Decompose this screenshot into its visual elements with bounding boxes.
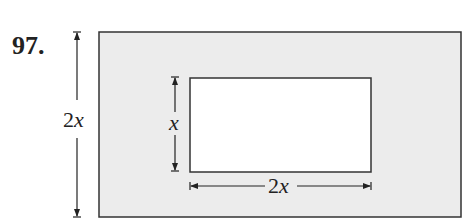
label-variable: x	[279, 173, 289, 198]
inner-width-label: 2x	[268, 173, 289, 199]
label-variable: x	[169, 110, 179, 135]
label-coefficient: 2	[268, 173, 279, 198]
inner-height-label: x	[169, 110, 179, 136]
label-variable: x	[74, 107, 84, 132]
label-coefficient: 2	[63, 107, 74, 132]
inner-rectangle	[190, 78, 371, 172]
outer-height-label: 2x	[63, 107, 84, 133]
